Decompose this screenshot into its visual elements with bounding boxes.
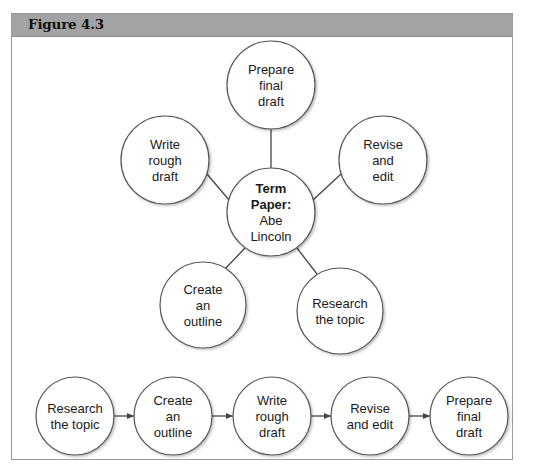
node-label: and edit — [347, 417, 394, 432]
node-label: the topic — [50, 417, 100, 432]
web-node-revise-and-edit: Reviseandedit — [339, 116, 427, 204]
node-label: draft — [456, 425, 482, 440]
node-label: draft — [259, 425, 285, 440]
connector-lower-right — [297, 248, 317, 274]
node-label: Prepare — [248, 62, 294, 77]
node-label: draft — [152, 169, 178, 184]
flow-step-research-the-topic: Researchthe topic — [36, 377, 114, 455]
connector-upper-right — [313, 174, 341, 200]
flow-diagram: Researchthe topicCreateanoutlineWriterou… — [36, 377, 508, 455]
web-diagram: PreparefinaldraftWriteroughdraftRevisean… — [121, 41, 427, 354]
node-label: Lincoln — [250, 229, 291, 244]
node-label: Term — [256, 181, 287, 196]
flow-step-revise-and-edit: Reviseand edit — [331, 377, 409, 455]
node-label: edit — [373, 169, 394, 184]
node-label: Write — [150, 137, 180, 152]
node-label: draft — [258, 94, 284, 109]
node-label: outline — [154, 425, 192, 440]
web-node-create-an-outline: Createanoutline — [160, 262, 246, 348]
node-label: Abe — [259, 213, 282, 228]
web-node-prepare-final-draft: Preparefinaldraft — [227, 41, 315, 129]
flow-step-write-rough-draft: Writeroughdraft — [233, 377, 311, 455]
node-label: Create — [183, 282, 222, 297]
node-label: final — [457, 409, 481, 424]
node-label: an — [166, 409, 180, 424]
node-label: Create — [153, 393, 192, 408]
web-node-center: TermPaper:AbeLincoln — [227, 168, 315, 256]
node-label: rough — [148, 153, 181, 168]
node-label: and — [372, 153, 394, 168]
node-label: outline — [184, 314, 222, 329]
node-label: an — [196, 298, 210, 313]
web-node-research-the-topic: Researchthe topic — [297, 268, 383, 354]
node-label: Write — [257, 393, 287, 408]
flow-step-create-an-outline: Createanoutline — [134, 377, 212, 455]
connector-upper-left — [207, 174, 229, 200]
node-label: Revise — [363, 137, 403, 152]
node-label: rough — [255, 409, 288, 424]
flow-step-prepare-final-draft: Preparefinaldraft — [430, 377, 508, 455]
node-label: Paper: — [251, 197, 291, 212]
node-label: Revise — [350, 401, 390, 416]
node-label: Prepare — [446, 393, 492, 408]
connector-lower-left — [224, 248, 245, 270]
node-label: final — [259, 78, 283, 93]
web-node-write-rough-draft: Writeroughdraft — [121, 116, 209, 204]
node-label: the topic — [315, 312, 365, 327]
node-label: Research — [312, 296, 368, 311]
node-label: Research — [47, 401, 103, 416]
diagram-canvas: PreparefinaldraftWriteroughdraftRevisean… — [0, 0, 546, 474]
